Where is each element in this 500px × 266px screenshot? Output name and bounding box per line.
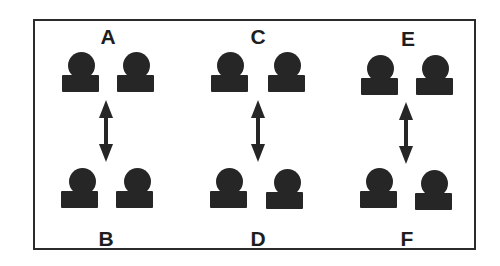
panel-label-e: E xyxy=(393,28,423,50)
figure-d-right xyxy=(266,169,303,210)
figure-b-right xyxy=(116,168,153,209)
figure-a-left xyxy=(62,52,99,93)
figure-e-right xyxy=(416,55,453,96)
panel-label-c: C xyxy=(243,26,273,48)
figure-d-left xyxy=(210,168,247,209)
panel-label-b: B xyxy=(91,228,121,250)
figure-c-left xyxy=(211,52,248,93)
figure-f-left xyxy=(360,168,397,209)
figure-c-right xyxy=(268,52,305,93)
double-arrow-icon-cd xyxy=(250,100,266,162)
double-arrow-icon-ab xyxy=(98,100,114,162)
panel-label-a: A xyxy=(93,26,123,48)
panel-label-d: D xyxy=(243,228,273,250)
panel-label-f: F xyxy=(392,228,422,250)
figure-f-right xyxy=(415,170,452,211)
figure-b-left xyxy=(61,168,98,209)
double-arrow-icon-ef xyxy=(398,102,414,164)
figure-a-right xyxy=(117,52,154,93)
figure-e-left xyxy=(361,55,398,96)
